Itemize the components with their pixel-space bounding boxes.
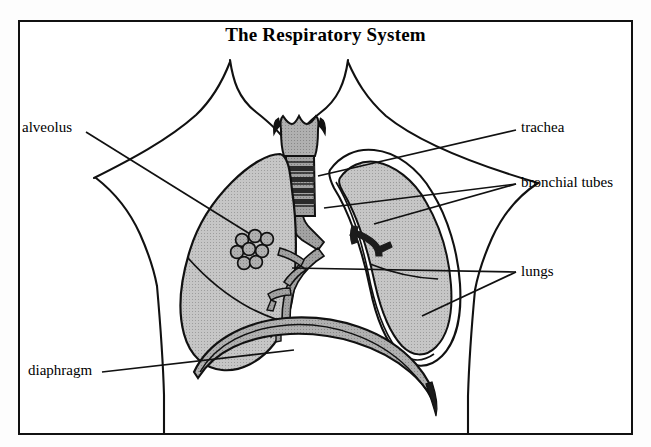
alveolus-sac [238, 257, 251, 270]
alveolus-sac [243, 243, 256, 256]
torso-left-side [157, 286, 164, 433]
neck-left-contour [230, 60, 286, 142]
larynx [281, 116, 319, 156]
label-bronchial-tubes: bronchial tubes [521, 175, 613, 190]
diagram-page: The Respiratory System [0, 0, 651, 447]
alveolus-sac [250, 256, 263, 269]
alveolus-sac [249, 230, 262, 243]
shoulder-left-contour [94, 62, 230, 178]
label-diaphragm: diaphragm [28, 363, 92, 378]
label-lungs: lungs [521, 264, 554, 279]
diaphragm-right-tail [426, 382, 437, 416]
armpit-left-contour [96, 178, 157, 286]
alveolus-sac [261, 233, 274, 246]
bronchus-right-branch [351, 226, 359, 244]
torso-right-side [468, 290, 475, 433]
label-alveolus: alveolus [22, 120, 72, 135]
respiratory-system-illustration [18, 20, 633, 435]
leader-line-alveolus [86, 132, 250, 234]
label-trachea: trachea [521, 120, 564, 135]
